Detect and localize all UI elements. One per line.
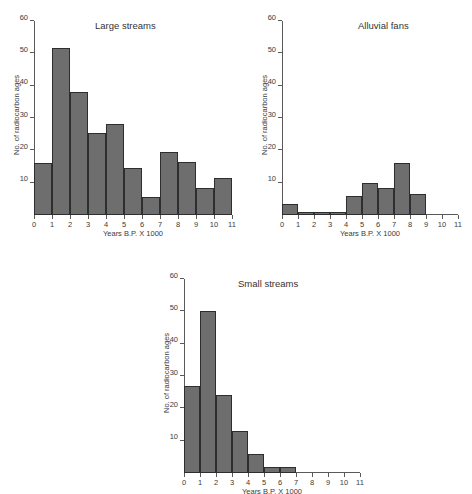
x-axis-tick [106, 215, 107, 219]
x-axis-tick [344, 473, 345, 477]
x-axis-tick-label: 4 [246, 479, 250, 487]
histogram-bar [216, 395, 232, 473]
histogram-bar [184, 386, 200, 473]
histogram-bar [378, 188, 394, 215]
y-axis-tick-label: 20 [20, 143, 28, 151]
histogram-bar [248, 454, 264, 473]
y-axis-tick-label: 40 [20, 78, 28, 86]
x-axis-title: Years B.P. X 1000 [242, 487, 302, 494]
x-axis-tick [312, 473, 313, 477]
x-axis-tick [282, 215, 283, 219]
x-axis-title: Years B.P. X 1000 [103, 229, 163, 238]
y-axis-tick [278, 20, 282, 21]
histogram-bar [410, 194, 426, 215]
y-axis-tick [278, 85, 282, 86]
y-axis-tick [30, 85, 34, 86]
y-axis-tick-label: 20 [268, 143, 276, 151]
x-axis-tick [196, 215, 197, 219]
x-axis-tick-label: 3 [230, 479, 234, 487]
x-axis-tick [200, 473, 201, 477]
x-axis-tick [142, 215, 143, 219]
plot-area: 10203040506001234567891011 [184, 279, 360, 473]
x-axis-tick-label: 3 [86, 221, 90, 229]
y-axis-tick [180, 343, 184, 344]
x-axis-tick-label: 10 [438, 221, 446, 229]
x-axis-tick-label: 0 [280, 221, 284, 229]
x-axis-tick [124, 215, 125, 219]
plot-area: 10203040506001234567891011 [282, 21, 458, 215]
x-axis-tick-label: 11 [356, 479, 364, 487]
chart-panel-small-streams: Small streams No. of radiocarbon ages 10… [150, 258, 400, 494]
y-axis-tick-label: 30 [170, 369, 178, 377]
chart-panel-large-streams: Large streams No. of radiocarbon ages 10… [0, 0, 240, 240]
x-axis-tick-label: 8 [310, 479, 314, 487]
x-axis-tick [426, 215, 427, 219]
x-axis-tick-label: 8 [408, 221, 412, 229]
x-axis-tick [160, 215, 161, 219]
histogram-bar [330, 212, 346, 215]
histogram-bar [34, 163, 52, 215]
histogram-bar [232, 431, 248, 473]
x-axis-tick-label: 10 [340, 479, 348, 487]
histogram-bar [346, 196, 362, 215]
x-axis-tick-label: 5 [262, 479, 266, 487]
y-axis-tick-label: 40 [268, 78, 276, 86]
x-axis-tick [214, 215, 215, 219]
x-axis-tick-label: 3 [328, 221, 332, 229]
x-axis-tick [296, 473, 297, 477]
x-axis-tick [410, 215, 411, 219]
x-axis-tick [178, 215, 179, 219]
x-axis-tick-label: 11 [228, 221, 236, 229]
x-axis-tick-label: 7 [294, 479, 298, 487]
x-axis-title: Years B.P. X 1000 [340, 229, 400, 238]
x-axis-tick [360, 473, 361, 477]
y-axis-tick-label: 20 [170, 401, 178, 409]
histogram-bar [200, 311, 216, 473]
y-axis-tick [180, 375, 184, 376]
x-axis-tick [232, 473, 233, 477]
x-axis-tick-label: 9 [424, 221, 428, 229]
histogram-bar [106, 124, 124, 215]
histogram-bar [52, 48, 70, 215]
y-axis-tick-label: 60 [20, 14, 28, 22]
x-axis-tick-label: 6 [376, 221, 380, 229]
y-axis-tick-label: 30 [268, 111, 276, 119]
x-axis-tick-label: 0 [182, 479, 186, 487]
x-axis-tick [458, 215, 459, 219]
x-axis-tick-label: 6 [278, 479, 282, 487]
x-axis-tick-label: 10 [210, 221, 218, 229]
x-axis-tick-label: 9 [194, 221, 198, 229]
y-axis-tick-label: 60 [170, 272, 178, 280]
y-axis-tick [30, 20, 34, 21]
x-axis-tick-label: 7 [392, 221, 396, 229]
x-axis-tick-label: 2 [214, 479, 218, 487]
histogram-bar [124, 168, 142, 215]
x-axis-tick-label: 4 [344, 221, 348, 229]
x-axis-tick [442, 215, 443, 219]
y-axis-tick-label: 50 [268, 46, 276, 54]
x-axis-tick-label: 1 [296, 221, 300, 229]
x-axis-tick-label: 4 [104, 221, 108, 229]
y-axis-tick-label: 50 [20, 46, 28, 54]
x-axis-tick [264, 473, 265, 477]
x-axis-tick [88, 215, 89, 219]
x-axis-tick-label: 0 [32, 221, 36, 229]
histogram-bar [142, 197, 160, 215]
x-axis-tick-label: 2 [68, 221, 72, 229]
x-axis-tick-label: 1 [198, 479, 202, 487]
x-axis-tick [314, 215, 315, 219]
x-axis-tick-label: 6 [140, 221, 144, 229]
y-axis-tick [278, 117, 282, 118]
x-axis-tick [248, 473, 249, 477]
y-axis-tick-label: 10 [268, 175, 276, 183]
x-axis-tick [362, 215, 363, 219]
y-axis-tick [30, 117, 34, 118]
y-axis-tick-label: 30 [20, 111, 28, 119]
x-axis-tick [70, 215, 71, 219]
x-axis-tick-label: 8 [176, 221, 180, 229]
y-axis-tick [30, 52, 34, 53]
y-axis-tick-label: 10 [20, 175, 28, 183]
x-axis-tick [378, 215, 379, 219]
histogram-bar [70, 92, 88, 215]
x-axis-tick-label: 5 [360, 221, 364, 229]
